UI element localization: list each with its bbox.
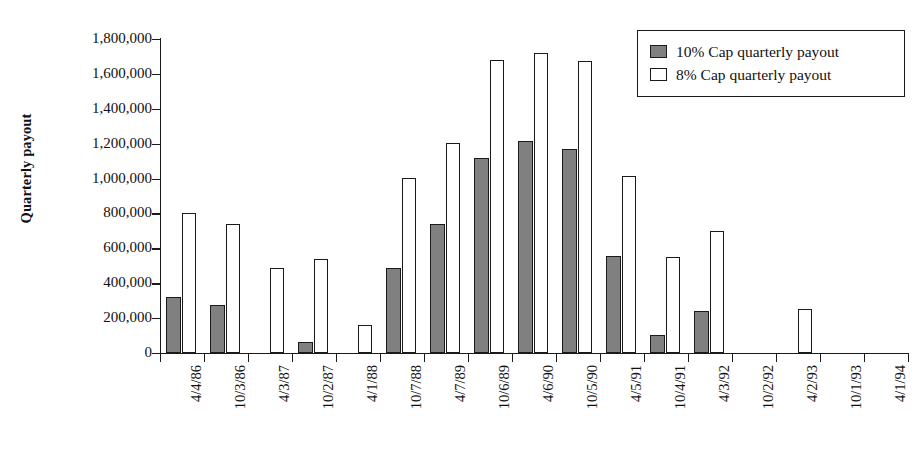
- bar: [694, 311, 709, 353]
- x-tick-mark: [688, 353, 689, 362]
- y-tick-mark: [152, 318, 161, 319]
- bar: [386, 268, 401, 353]
- bar: [298, 342, 313, 353]
- y-tick-label: 600,000: [103, 240, 152, 255]
- y-tick-label: 0: [145, 345, 153, 360]
- x-tick-label: 10/6/89: [496, 365, 513, 455]
- y-tick-mark: [152, 109, 161, 110]
- x-tick-label: 10/2/87: [320, 365, 337, 455]
- y-tick-label: 800,000: [103, 205, 152, 220]
- bar: [226, 224, 241, 353]
- y-tick-label: 400,000: [103, 275, 152, 290]
- y-tick-label: 1,000,000: [92, 171, 152, 186]
- bar: [518, 141, 533, 353]
- bar: [270, 268, 285, 353]
- bar: [798, 309, 813, 353]
- bar: [182, 213, 197, 353]
- x-tick-mark: [380, 353, 381, 362]
- x-tick-mark: [776, 353, 777, 362]
- y-tick-mark: [152, 179, 161, 180]
- x-tick-label: 4/4/86: [188, 365, 205, 455]
- legend-label: 10% Cap quarterly payout: [676, 44, 839, 60]
- bar: [314, 259, 329, 353]
- y-tick-label: 1,800,000: [92, 31, 152, 46]
- x-tick-label: 10/3/86: [232, 365, 249, 455]
- x-tick-mark: [644, 353, 645, 362]
- bar: [710, 231, 725, 353]
- y-tick-mark: [152, 248, 161, 249]
- x-tick-mark: [468, 353, 469, 362]
- y-tick-label: 1,200,000: [92, 136, 152, 151]
- x-tick-label: 10/2/92: [760, 365, 777, 455]
- bar: [430, 224, 445, 353]
- y-tick-mark: [152, 39, 161, 40]
- bar: [578, 61, 593, 353]
- x-tick-label: 10/5/90: [584, 365, 601, 455]
- bar-chart: Quarterly payout 0200,000400,000600,0008…: [0, 0, 923, 464]
- bar: [166, 297, 181, 353]
- x-tick-mark: [424, 353, 425, 362]
- y-tick-label: 1,400,000: [92, 101, 152, 116]
- x-tick-label: 10/7/88: [408, 365, 425, 455]
- x-tick-label: 4/5/91: [628, 365, 645, 455]
- legend-item: 8% Cap quarterly payout: [650, 63, 894, 86]
- bar: [446, 143, 461, 353]
- bar: [562, 149, 577, 353]
- x-tick-label: 4/7/89: [452, 365, 469, 455]
- y-tick-label: 1,600,000: [92, 66, 152, 81]
- x-tick-mark: [908, 353, 909, 362]
- x-tick-mark: [732, 353, 733, 362]
- legend-item: 10% Cap quarterly payout: [650, 40, 894, 63]
- x-tick-mark: [512, 353, 513, 362]
- x-tick-mark: [248, 353, 249, 362]
- bar: [402, 178, 417, 353]
- x-tick-mark: [204, 353, 205, 362]
- bar: [490, 60, 505, 353]
- chart-legend: 10% Cap quarterly payout8% Cap quarterly…: [637, 30, 905, 97]
- bar: [650, 335, 665, 353]
- x-tick-mark: [160, 353, 161, 362]
- x-tick-mark: [864, 353, 865, 362]
- x-tick-label: 4/3/87: [276, 365, 293, 455]
- legend-swatch-icon: [650, 68, 667, 81]
- y-tick-mark: [152, 213, 161, 214]
- legend-swatch-icon: [650, 45, 667, 58]
- y-tick-mark: [152, 144, 161, 145]
- x-tick-mark: [820, 353, 821, 362]
- x-tick-label: 10/4/91: [672, 365, 689, 455]
- y-tick-mark: [152, 74, 161, 75]
- bar: [622, 176, 637, 353]
- bar: [606, 256, 621, 353]
- bar: [358, 325, 373, 353]
- x-tick-mark: [556, 353, 557, 362]
- y-tick-label: 200,000: [103, 310, 152, 325]
- y-tick-mark: [152, 283, 161, 284]
- x-tick-mark: [292, 353, 293, 362]
- legend-label: 8% Cap quarterly payout: [676, 67, 831, 83]
- x-tick-mark: [600, 353, 601, 362]
- bar: [474, 158, 489, 353]
- x-tick-mark: [336, 353, 337, 362]
- bar: [210, 305, 225, 353]
- x-tick-label: 10/1/93: [848, 365, 865, 455]
- x-tick-label: 4/3/92: [716, 365, 733, 455]
- x-tick-label: 4/1/88: [364, 365, 381, 455]
- bar: [666, 257, 681, 353]
- x-tick-label: 4/1/94: [892, 365, 909, 455]
- x-tick-label: 4/6/90: [540, 365, 557, 455]
- y-axis-tick-labels: 0200,000400,000600,000800,0001,000,0001,…: [0, 0, 152, 464]
- bar: [534, 53, 549, 353]
- x-tick-label: 4/2/93: [804, 365, 821, 455]
